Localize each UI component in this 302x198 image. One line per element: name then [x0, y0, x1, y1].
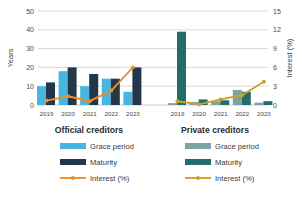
left-axis-title: Years — [6, 48, 15, 67]
bar-grace-private-2019 — [168, 103, 177, 105]
legend-swatch-grace-private — [185, 143, 211, 149]
legend-private: Grace period Maturity Interest (%) — [185, 142, 259, 183]
interest-point-private-2019 — [176, 99, 180, 103]
panel-title-private: Private creditors — [181, 125, 249, 135]
bar-grace-2021 — [80, 86, 89, 105]
legend-label-maturity-private: Maturity — [215, 158, 242, 167]
legend-label-maturity-official: Maturity — [90, 158, 117, 167]
bar-maturity-2023 — [132, 67, 141, 105]
interest-point-2020 — [66, 94, 70, 98]
left-ytick-0: 0 — [30, 102, 34, 109]
left-ytick-20: 20 — [26, 64, 34, 71]
bar-maturity-private-2023 — [263, 101, 272, 105]
xtick-official-2019: 2019 — [40, 110, 54, 117]
bars-maturity-private — [177, 32, 272, 105]
right-ytick-3: 3 — [273, 83, 277, 90]
interest-point-2023 — [131, 65, 135, 69]
left-ytick-30: 30 — [26, 45, 34, 52]
xtick-official-2022: 2022 — [104, 110, 118, 117]
left-ytick-10: 10 — [26, 83, 34, 90]
bar-grace-private-2023 — [254, 103, 263, 105]
legend-label-interest-private: Interest (%) — [215, 174, 255, 183]
legend-swatch-grace-official — [60, 143, 86, 149]
panel-official-creditors: 2019 2020 2021 2022 2023 Official credit… — [37, 65, 141, 183]
right-ytick-6: 6 — [273, 64, 277, 71]
legend-label-interest-official: Interest (%) — [90, 174, 130, 183]
xaxis-private: 2019 2020 2021 2022 2023 — [171, 110, 272, 117]
xtick-private-2023: 2023 — [257, 110, 271, 117]
bar-maturity-private-2019 — [177, 32, 186, 105]
left-ytick-50: 50 — [26, 8, 34, 15]
panel-private-creditors: 2019 2020 2021 2022 2023 Private credito… — [168, 32, 272, 183]
bar-grace-2019 — [37, 86, 46, 105]
legend-label-grace-private: Grace period — [215, 142, 259, 151]
right-ytick-0: 0 — [273, 102, 277, 109]
interest-point-2022 — [109, 89, 113, 93]
xtick-private-2021: 2021 — [214, 110, 228, 117]
interest-point-2021 — [88, 99, 92, 103]
xtick-official-2023: 2023 — [126, 110, 140, 117]
bar-grace-2020 — [59, 71, 68, 105]
legend-marker-interest-private — [196, 176, 200, 180]
interest-point-private-2021 — [219, 97, 223, 101]
legend-official: Grace period Maturity Interest (%) — [60, 142, 134, 183]
left-ytick-40: 40 — [26, 26, 34, 33]
bar-grace-2023 — [123, 92, 132, 105]
xaxis-official: 2019 2020 2021 2022 2023 — [40, 110, 141, 117]
right-ytick-9: 9 — [273, 45, 277, 52]
right-axis-title: Interest (%) — [285, 38, 294, 77]
legend-swatch-maturity-private — [185, 159, 211, 165]
xtick-official-2020: 2020 — [61, 110, 75, 117]
right-ytick-12: 12 — [273, 26, 281, 33]
xtick-private-2019: 2019 — [171, 110, 185, 117]
interest-point-2019 — [45, 99, 49, 103]
interest-point-private-2020 — [197, 102, 201, 106]
xtick-official-2021: 2021 — [83, 110, 97, 117]
xtick-private-2022: 2022 — [235, 110, 249, 117]
xtick-private-2020: 2020 — [192, 110, 206, 117]
dual-panel-chart: 50 40 30 20 10 0 Years 15 12 9 6 3 0 Int… — [0, 0, 302, 198]
panel-title-official: Official creditors — [55, 125, 124, 135]
right-y-axis: 15 12 9 6 3 0 Interest (%) — [273, 8, 294, 109]
bar-maturity-2020 — [68, 67, 77, 105]
interest-point-private-2023 — [262, 80, 266, 84]
interest-point-private-2022 — [240, 93, 244, 97]
legend-label-grace-official: Grace period — [90, 142, 134, 151]
legend-marker-interest-official — [71, 176, 75, 180]
right-ytick-15: 15 — [273, 8, 281, 15]
legend-swatch-maturity-official — [60, 159, 86, 165]
left-y-axis: 50 40 30 20 10 0 Years — [6, 8, 34, 109]
